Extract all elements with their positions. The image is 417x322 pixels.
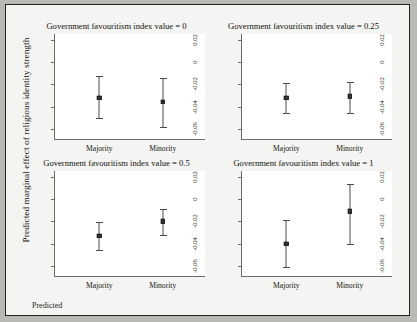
y-tick-label: -0.06 [379,122,386,136]
error-bar-cap-upper [96,76,103,77]
panel-plot-box: 0.020-0.02-0.04-0.06MajorityMinority [54,171,205,277]
y-axis-line [241,34,242,140]
y-tick-label: -0.02 [379,214,386,228]
y-tick-mark [51,62,54,63]
error-bar-line [349,184,350,243]
panel-title: Government favouritism index value = 0.5 [24,158,209,168]
error-bar-cap-lower [283,267,290,268]
y-tick-mark [238,40,241,41]
estimate-point [161,219,165,223]
error-bar-cap-upper [283,83,290,84]
panel-plot-box: 0.020-0.02-0.04-0.06MajorityMinority [241,34,392,140]
y-tick-mark [238,177,241,178]
y-tick-mark [51,107,54,108]
y-tick-label: 0.02 [192,34,199,46]
y-tick-mark [238,199,241,200]
y-tick-mark [238,221,241,222]
facet-panel-0: Government favouritism index value = 00.… [24,21,209,159]
estimate-point [348,94,352,98]
y-tick-label: 0 [192,60,199,63]
y-tick-label: -0.06 [379,259,386,273]
panel-plot-box: 0.020-0.02-0.04-0.06MajorityMinority [241,171,392,277]
y-tick-mark [51,84,54,85]
y-tick-label: -0.06 [192,122,199,136]
x-tick-label: Majority [273,281,300,290]
panel-title: Government favouritism index value = 0.2… [211,21,396,31]
error-bar-cap-lower [347,113,354,114]
error-bar-cap-upper [283,220,290,221]
y-tick-mark [238,129,241,130]
y-tick-mark [51,129,54,130]
facet-panel-2: Government favouritism index value = 0.5… [24,158,209,296]
error-bar-cap-upper [160,78,167,79]
x-axis-line [241,139,392,140]
estimate-point [348,209,352,213]
y-tick-label: 0.02 [192,171,199,183]
y-axis-line [241,171,242,277]
y-tick-label: -0.04 [192,100,199,114]
y-tick-label: -0.06 [192,259,199,273]
y-tick-mark [51,40,54,41]
x-axis-line [241,276,392,277]
x-axis-line [54,276,205,277]
y-tick-label: -0.04 [379,100,386,114]
error-bar-cap-lower [160,235,167,236]
panel-title: Government favouritism index value = 1 [211,158,396,168]
y-tick-label: 0.02 [379,171,386,183]
estimate-point [161,100,165,104]
x-axis-line [54,139,205,140]
x-tick-label: Minority [149,144,176,153]
y-tick-mark [238,84,241,85]
y-tick-label: -0.04 [192,237,199,251]
error-bar-cap-lower [347,244,354,245]
estimate-point [97,95,101,99]
y-axis-line [54,171,55,277]
footer-label: Predicted [32,301,62,310]
error-bar-cap-upper [347,82,354,83]
error-bar-cap-lower [96,118,103,119]
y-tick-label: 0 [379,197,386,200]
y-tick-mark [51,266,54,267]
x-tick-label: Minority [149,281,176,290]
figure-frame: Predicted marginal effect of religious i… [5,4,410,316]
error-bar-cap-upper [160,209,167,210]
x-tick-label: Majority [86,144,113,153]
y-axis-line [54,34,55,140]
plot-area: Predicted marginal effect of religious i… [6,5,409,315]
facet-panel-3: Government favouritism index value = 10.… [211,158,396,296]
y-tick-label: -0.02 [379,77,386,91]
y-tick-label: -0.02 [192,214,199,228]
estimate-point [284,241,288,245]
y-tick-mark [238,107,241,108]
panel-title: Government favouritism index value = 0 [24,21,209,31]
error-bar-cap-upper [96,222,103,223]
y-tick-mark [51,221,54,222]
x-tick-label: Minority [336,281,363,290]
y-tick-mark [238,266,241,267]
y-tick-label: -0.04 [379,237,386,251]
x-tick-label: Minority [336,144,363,153]
error-bar-cap-lower [160,127,167,128]
error-bar-cap-upper [347,184,354,185]
facet-panel-1: Government favouritism index value = 0.2… [211,21,396,159]
y-tick-label: -0.02 [192,77,199,91]
estimate-point [284,95,288,99]
y-tick-label: 0.02 [379,34,386,46]
y-tick-mark [51,177,54,178]
x-tick-label: Majority [273,144,300,153]
estimate-point [97,234,101,238]
y-tick-label: 0 [192,197,199,200]
panel-plot-box: 0.020-0.02-0.04-0.06MajorityMinority [54,34,205,140]
error-bar-cap-lower [96,250,103,251]
y-tick-mark [51,199,54,200]
x-tick-label: Majority [86,281,113,290]
y-tick-mark [238,62,241,63]
y-tick-label: 0 [379,60,386,63]
error-bar-cap-lower [283,113,290,114]
y-tick-mark [51,244,54,245]
y-tick-mark [238,244,241,245]
